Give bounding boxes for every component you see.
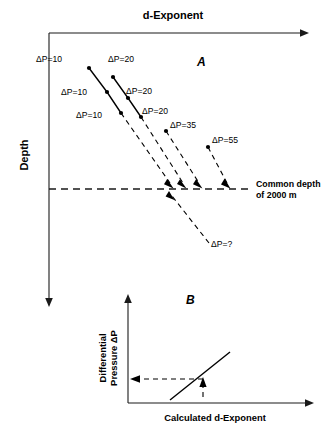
panel-b-x-axis-arrowhead xyxy=(305,399,314,407)
series-dp10-label-2: ΔP=10 xyxy=(61,87,87,97)
panel-b-trend-line xyxy=(170,352,230,400)
panel-b-horizontal-arrowhead xyxy=(130,375,140,383)
unknown-dp-extrapolation xyxy=(172,196,209,243)
series-dp20-label-3: ΔP=20 xyxy=(142,106,168,116)
panel-a-x-axis-title: d-Exponent xyxy=(143,9,204,21)
common-depth-note-line-1: Common depth xyxy=(256,179,321,189)
panel-a-y-axis-arrowhead xyxy=(45,298,53,307)
series-dp10-line xyxy=(89,68,121,113)
panel-a-x-axis-arrowhead xyxy=(300,29,309,37)
panel-a-y-axis-title: Depth xyxy=(18,139,30,170)
panel-b-y-axis-title-line-2: Pressure ΔP xyxy=(108,330,119,386)
panel-b-y-axis-title-line-1: Differential xyxy=(97,334,108,383)
unknown-dp-label: ΔP=? xyxy=(211,239,232,249)
panel-a-letter: A xyxy=(196,55,206,69)
panel-b-x-axis-title: Calculated d-Exponent xyxy=(164,412,266,423)
common-depth-note-line-2: of 2000 m xyxy=(256,190,297,200)
series-dp55-label: ΔP=55 xyxy=(212,135,238,145)
series-dp10-point-2 xyxy=(105,90,109,94)
panel-b: Differential Pressure ΔP Calculated d-Ex… xyxy=(97,293,314,423)
series-dp10-extrapolation xyxy=(121,113,170,183)
series-dp35-extrapolation xyxy=(166,131,199,183)
panel-b-y-axis-arrowhead xyxy=(124,294,132,303)
series-dp10-label-3: ΔP=10 xyxy=(76,110,102,120)
series-dp20-label-2: ΔP=20 xyxy=(126,86,152,96)
series-dp20-point-1 xyxy=(111,75,115,79)
unknown-dp-arrowhead xyxy=(166,191,175,200)
series-dp35-label: ΔP=35 xyxy=(170,120,196,130)
series-dp20-label-1: ΔP=20 xyxy=(108,54,134,64)
series-dp55-extrapolation xyxy=(208,147,227,183)
series-dp20-point-2 xyxy=(126,96,130,100)
panel-a: d-Exponent Depth A Common depth of 2000 … xyxy=(18,9,321,307)
series-dp10-point-1 xyxy=(87,66,91,70)
series-dp10-label-1: ΔP=10 xyxy=(36,54,62,64)
panel-b-letter: B xyxy=(186,293,195,307)
figure-root: d-Exponent Depth A Common depth of 2000 … xyxy=(0,0,335,430)
